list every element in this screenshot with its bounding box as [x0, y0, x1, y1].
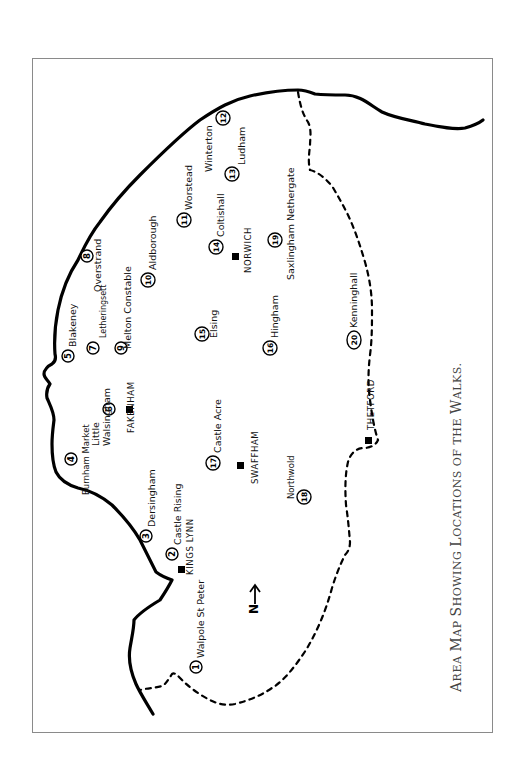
town-fakenham: FAKENHAM	[126, 381, 136, 433]
walk-label: Walsingham	[101, 388, 112, 446]
walk-label: Ludham	[236, 127, 247, 165]
svg-text:3: 3	[141, 533, 151, 539]
svg-text:7: 7	[88, 345, 98, 351]
svg-text:19: 19	[271, 235, 280, 245]
map-caption: AREA MAP SHOWING LOCATIONS OF THE WALKS.	[448, 363, 464, 693]
svg-text:12: 12	[219, 113, 228, 123]
svg-text:13: 13	[228, 169, 237, 179]
walk-marker-7[interactable]: 7 Letheringsett	[87, 285, 108, 354]
walk-marker-3[interactable]: 3 Dersingham	[140, 469, 157, 542]
walk-label: Castle Rising	[172, 483, 183, 545]
walk-label: Dersingham	[146, 469, 157, 527]
walk-marker-13[interactable]: 13 Ludham	[225, 127, 247, 181]
svg-text:5: 5	[63, 353, 73, 359]
town-marker-icon	[365, 437, 372, 444]
town-thetford: THETFORD	[365, 379, 376, 444]
walk-marker-10[interactable]: 10 Aldborough	[141, 215, 158, 287]
walk-label: Blakeney	[67, 303, 78, 347]
walk-label: Castle Acre	[212, 399, 223, 453]
svg-text:11: 11	[180, 215, 189, 225]
walk-label: Northwold	[286, 455, 296, 499]
walk-marker-15[interactable]: 15 Elsing	[195, 310, 219, 341]
walk-label: Kenninghall	[348, 273, 359, 328]
walk-marker-5[interactable]: 5 Blakeney	[62, 303, 78, 362]
walk-marker-18[interactable]: 18 Northwold	[286, 455, 311, 504]
town-swaffham: SWAFFHAM	[237, 431, 260, 484]
svg-text:16: 16	[266, 343, 275, 353]
walk-marker-12[interactable]: 12 Winterton	[203, 111, 230, 172]
svg-text:15: 15	[198, 329, 207, 339]
town-marker-icon	[232, 253, 239, 260]
walk-marker-14[interactable]: 14 Coltishall	[209, 193, 226, 254]
svg-text:2: 2	[167, 551, 177, 557]
walk-label: Little	[90, 422, 101, 446]
svg-text:18: 18	[300, 492, 309, 502]
walk-marker-19[interactable]: 19 Saxlingham Nethergate	[268, 167, 296, 280]
north-arrow: N	[247, 585, 261, 614]
walk-label: Coltishall	[215, 193, 226, 237]
svg-text:KINGS LYNN: KINGS LYNN	[185, 518, 195, 575]
walk-label: Saxlingham Nethergate	[285, 167, 296, 280]
walk-marker-2[interactable]: 2 Castle Rising	[166, 483, 183, 560]
walk-marker-6[interactable]: 6 Little Walsingham	[90, 388, 115, 446]
svg-text:FAKENHAM: FAKENHAM	[126, 381, 136, 433]
walk-label: Overstrand	[92, 239, 103, 292]
walk-label: Hingham	[269, 295, 280, 338]
walk-label: Elsing	[208, 310, 219, 338]
town-marker-icon	[178, 566, 185, 573]
area-map: N KINGS LYNN FAKENHAM NORWICH SWAFFHAM T…	[0, 0, 506, 760]
town-norwich: NORWICH	[232, 227, 253, 273]
svg-text:SWAFFHAM: SWAFFHAM	[250, 431, 260, 484]
svg-text:1: 1	[191, 664, 201, 670]
svg-text:THETFORD: THETFORD	[366, 379, 376, 431]
svg-text:NORWICH: NORWICH	[243, 227, 253, 273]
walk-marker-1[interactable]: 1 Walpole St Peter	[190, 580, 206, 673]
walk-marker-20[interactable]: 20 Kenninghall	[347, 273, 361, 349]
walk-marker-17[interactable]: 17 Castle Acre	[206, 399, 223, 470]
svg-text:8: 8	[82, 253, 92, 259]
svg-text:20: 20	[350, 335, 359, 345]
walk-label: Winterton	[203, 125, 214, 172]
walk-marker-16[interactable]: 16 Hingham	[263, 295, 280, 355]
walk-marker-11[interactable]: 11 Worstead	[177, 165, 194, 227]
walk-label: Worstead	[183, 165, 194, 210]
svg-text:14: 14	[212, 242, 221, 252]
walk-marker-9[interactable]: 9 Melton Constable	[115, 266, 133, 354]
north-label: N	[247, 604, 261, 614]
svg-text:4: 4	[66, 456, 76, 462]
svg-text:10: 10	[144, 275, 153, 285]
walk-label: Walpole St Peter	[195, 580, 206, 658]
svg-text:17: 17	[209, 458, 218, 468]
walk-label: Aldborough	[147, 215, 158, 270]
town-marker-icon	[237, 462, 244, 469]
walk-label: Melton Constable	[122, 266, 133, 349]
